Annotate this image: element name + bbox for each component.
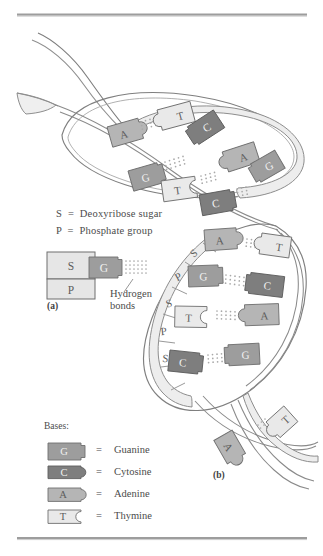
svg-text:G: G bbox=[100, 262, 108, 274]
legend-name-T: Thymine bbox=[114, 509, 152, 522]
ribbon-left-flat-end bbox=[17, 93, 56, 114]
hydrogen-bonds-label-line2: bonds bbox=[110, 300, 152, 312]
legend-name-G: Guanine bbox=[114, 443, 150, 456]
key-phosphate-line: P = Phosphate group bbox=[56, 224, 153, 237]
panel-a-hbond-dots bbox=[125, 260, 147, 274]
svg-text:C: C bbox=[263, 279, 272, 292]
key-phosphate-symbol: P bbox=[56, 225, 62, 236]
base-tile-A-tail: A bbox=[214, 430, 249, 470]
svg-text:G: G bbox=[199, 270, 207, 282]
key-phosphate-name: Phosphate group bbox=[79, 225, 152, 236]
legend-equals-G: = bbox=[96, 443, 102, 456]
svg-text:G: G bbox=[241, 349, 250, 361]
legend-equals-T: = bbox=[96, 509, 102, 522]
legend-swatch-T: T bbox=[48, 510, 81, 523]
svg-text:A: A bbox=[215, 234, 224, 247]
helix-lower: S P S P S A bbox=[144, 224, 307, 411]
bases-legend-heading: Bases: bbox=[44, 421, 69, 433]
legend-swatch-G: G bbox=[48, 443, 85, 460]
base-tile-T-lower: T bbox=[253, 232, 292, 258]
legend-equals-C: = bbox=[96, 465, 102, 478]
legend-swatch-C: C bbox=[48, 466, 86, 479]
base-tile-C-lower-2: C bbox=[168, 350, 204, 374]
top-rule bbox=[17, 14, 307, 16]
panel-b-label: (b) bbox=[213, 470, 225, 482]
hbond-dots-T-A-lower bbox=[216, 310, 236, 320]
base-pair-A-T-upper: A T bbox=[107, 101, 195, 147]
hbond-dots-T-A-upper bbox=[200, 172, 216, 185]
base-tile-A-lower: A bbox=[204, 227, 244, 251]
key-phosphate-equals: = bbox=[67, 225, 73, 236]
legend-name-A: Adenine bbox=[114, 487, 150, 500]
ribbon-upper-left-strand-a bbox=[38, 33, 124, 126]
panel-a-base-tile-G: G bbox=[89, 257, 122, 278]
base-pair-G-C-lower: G C bbox=[188, 265, 285, 298]
base-tile-A-lower-2: A bbox=[238, 304, 279, 326]
key-sugar-line: S = Deoxyribose sugar bbox=[56, 207, 162, 220]
bottom-rule-shadow bbox=[17, 539, 307, 540]
base-pair-C-G-lower: C G bbox=[168, 343, 260, 374]
backbone-label-S-3: S bbox=[162, 352, 169, 365]
panel-a-label: (a) bbox=[47, 301, 58, 313]
hydrogen-bonds-label-line1: Hydrogen bbox=[110, 288, 152, 300]
bases-legend-swatches: G C A T bbox=[48, 443, 86, 523]
base-tile-C-lower: C bbox=[244, 272, 284, 297]
svg-text:A: A bbox=[260, 309, 268, 321]
key-sugar-name: Deoxyribose sugar bbox=[80, 208, 162, 219]
svg-text:C: C bbox=[60, 467, 67, 478]
base-tile-G-lower-2: G bbox=[224, 343, 260, 366]
svg-text:A: A bbox=[59, 489, 67, 500]
legend-equals-A: = bbox=[96, 487, 102, 500]
sugar-box-letter: S bbox=[68, 260, 74, 272]
dna-structure-figure: A T G bbox=[0, 0, 323, 556]
hydrogen-bonds-label: Hydrogen bonds bbox=[110, 288, 152, 313]
base-tile-G: G bbox=[128, 161, 167, 191]
key-sugar-equals: = bbox=[68, 208, 74, 219]
legend-name-C: Cytosine bbox=[114, 465, 151, 478]
top-rule-shadow bbox=[17, 16, 307, 17]
base-tile-G-lower: G bbox=[188, 265, 223, 287]
backbone-labels: S P S P S bbox=[160, 246, 200, 364]
hbond-dots-G-C-lower bbox=[225, 274, 245, 286]
legend-swatch-A: A bbox=[48, 488, 86, 501]
base-tile-T-lower-2: T bbox=[175, 306, 207, 328]
key-sugar-symbol: S bbox=[56, 208, 62, 219]
bottom-rule bbox=[17, 537, 307, 539]
backbone-label-P-2: P bbox=[160, 325, 167, 338]
dna-illustration: A T G bbox=[0, 0, 323, 556]
ribbon-upper-left-strand-b bbox=[32, 40, 122, 130]
helix-upper: A T G bbox=[17, 33, 304, 230]
hbond-dots-C-G-lower bbox=[207, 353, 223, 364]
svg-text:T: T bbox=[60, 511, 67, 522]
svg-text:T: T bbox=[185, 312, 192, 324]
svg-text:G: G bbox=[60, 446, 68, 457]
svg-text:C: C bbox=[178, 356, 187, 369]
base-pair-T-A-lower: T A bbox=[175, 304, 280, 328]
phosphate-box-letter: P bbox=[68, 284, 74, 296]
